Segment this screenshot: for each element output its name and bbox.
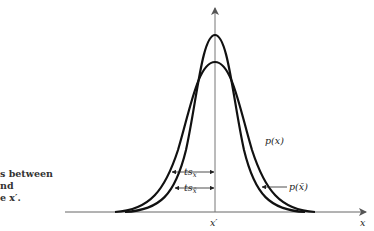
x-axis-label: x	[360, 217, 366, 228]
p-x-label: p(x)	[265, 135, 284, 146]
distribution-diagram: tsx tsx̄ p(x) p(x̄) x′ x	[0, 0, 374, 231]
ts-xbar-label: tsx̄	[184, 182, 197, 195]
x-prime-label: x′	[210, 217, 218, 228]
p-xbar-label: p(x̄)	[289, 181, 308, 192]
ts-x-label: tsx	[184, 166, 197, 179]
